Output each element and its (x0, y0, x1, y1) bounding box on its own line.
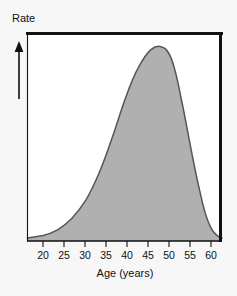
x-tick-label: 30 (79, 249, 91, 261)
x-tick-label: 25 (58, 249, 70, 261)
x-tick-label: 20 (37, 249, 49, 261)
x-tick-label: 50 (163, 249, 175, 261)
x-tick-label: 60 (205, 249, 217, 261)
chart-svg: Rate (0, 0, 237, 296)
x-tick-label: 35 (100, 249, 112, 261)
x-tick-label: 45 (142, 249, 154, 261)
x-axis-label: Age (years) (97, 267, 154, 279)
x-tick-label: 55 (184, 249, 196, 261)
x-tick-label: 40 (121, 249, 133, 261)
x-axis-tick-labels: 20 25 30 35 40 45 50 55 60 (37, 249, 217, 261)
chart-figure: Rate (0, 0, 237, 296)
y-axis-label: Rate (12, 12, 35, 24)
